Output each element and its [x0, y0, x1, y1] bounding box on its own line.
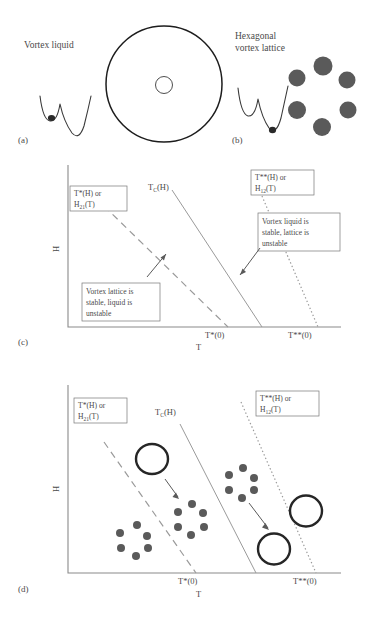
- panel-c-ann2-line3: unstable: [262, 239, 288, 248]
- panel-c-tag: (c): [18, 337, 28, 347]
- panel-d-label-tc: TC(H): [155, 407, 176, 418]
- panel-c-label-tstarstar-box: T**(H) or H12(T): [251, 170, 314, 195]
- panel-a: Vortex liquid (a): [18, 26, 222, 145]
- panel-c-annotation-lattice-stable: Vortex lattice is stable, liquid is unst…: [82, 254, 166, 321]
- panel-b: Hexagonal vortex lattice (b): [232, 31, 357, 145]
- transition-arrow-right: [249, 503, 269, 530]
- panel-d-tstarstar-line1: T**(H) or: [260, 394, 291, 403]
- panel-c-xtick-tstar0: T*(0): [205, 330, 225, 340]
- large-vortex-circle-icon: [106, 26, 222, 142]
- transition-arrow-left: [165, 479, 179, 499]
- lattice-cluster-center: [174, 500, 208, 539]
- figure-root: Vortex liquid (a) Hexagonal vortex latti…: [0, 0, 367, 622]
- panel-c-tstarstar-line1: T**(H) or: [255, 173, 286, 182]
- panel-d: H T T*(0) T**(0) T*(H) or H21(T) TC(H) T…: [18, 385, 341, 599]
- lattice-cluster-far-left: [116, 521, 152, 560]
- panel-a-tag: (a): [18, 135, 28, 145]
- panel-d-tag: (d): [18, 584, 29, 594]
- panel-c-annotation-liquid-stable: Vortex liquid is stable, lattice is unst…: [240, 213, 340, 275]
- panel-c-ann1-line3: unstable: [86, 309, 112, 318]
- panel-d-label-tstarstar-box: T**(H) or H12(T): [256, 391, 319, 416]
- panel-d-tstar-line1: T*(H) or: [78, 401, 106, 410]
- panel-d-label-tstar-box: T*(H) or H21(T): [74, 398, 127, 423]
- lattice-cluster-right: [225, 464, 258, 502]
- panel-c-ylabel: H: [51, 246, 61, 252]
- panel-c: H T T*(0) T**(0) T*(H) or H21(T) TC(H) T…: [18, 165, 341, 352]
- panel-c-ann1-line1: Vortex lattice is: [86, 287, 134, 296]
- panel-d-tstar-line2: H21(T): [78, 412, 99, 422]
- hexagonal-lattice-dots: [288, 57, 357, 137]
- transition-arrow-left-head: [173, 493, 180, 500]
- panel-c-label-tc: TC(H): [148, 182, 169, 193]
- panel-b-title-line1: Hexagonal: [235, 31, 277, 41]
- transition-arrow-right-head: [262, 523, 269, 530]
- liquid-circle-lower-right: [258, 534, 290, 565]
- double-well-potential-left-icon: [40, 96, 91, 136]
- panel-c-tstarstar-line2: H12(T): [255, 184, 276, 194]
- panel-c-ann2-line2: stable, lattice is: [262, 228, 309, 237]
- panel-d-xtick-tstarstar0: T**(0): [293, 576, 317, 586]
- panel-d-ylabel: H: [51, 486, 61, 492]
- panel-c-curve-tc: [172, 190, 262, 327]
- panel-c-ann1-line2: stable, liquid is: [86, 298, 132, 307]
- liquid-circle-far-right: [290, 496, 322, 527]
- panel-b-tag: (b): [232, 135, 243, 145]
- double-well-potential-right-icon: [238, 86, 288, 133]
- panel-b-title-line2: vortex lattice: [235, 43, 285, 53]
- panel-c-arrow-right-head: [240, 269, 246, 276]
- panel-c-label-tstar-box: T*(H) or H21(T): [70, 186, 127, 211]
- panel-d-xtick-tstar0: T*(0): [178, 576, 198, 586]
- panel-c-xlabel: T: [196, 342, 202, 352]
- panel-c-xtick-tstarstar0: T**(0): [288, 330, 312, 340]
- panel-c-tstar-line1: T*(H) or: [74, 189, 102, 198]
- panel-d-xlabel: T: [196, 589, 202, 599]
- panel-d-curve-tstar: [104, 442, 196, 573]
- panel-d-tstarstar-line2: H12(T): [260, 405, 281, 415]
- panel-c-ann2-line1: Vortex liquid is: [262, 217, 309, 226]
- panel-c-tstar-line2: H21(T): [74, 200, 95, 210]
- panel-a-title: Vortex liquid: [24, 40, 74, 50]
- liquid-circle-upper-left: [136, 444, 168, 474]
